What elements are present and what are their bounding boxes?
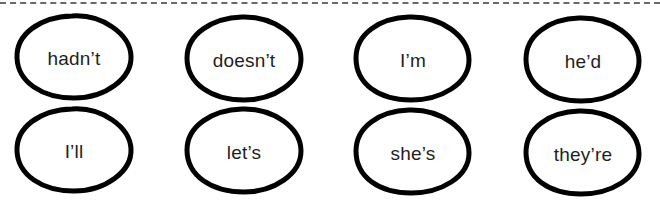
egg-card-doesnt: doesn’t	[184, 14, 304, 102]
contraction-word: hadn’t	[14, 12, 134, 100]
contraction-word: she’s	[353, 107, 473, 195]
contraction-word: let’s	[184, 106, 304, 194]
egg-card-hadnt: hadn’t	[14, 12, 134, 100]
contraction-word: I’m	[353, 14, 473, 102]
egg-card-hed: he’d	[523, 15, 643, 103]
contraction-egg-grid: hadn’t doesn’t I’m he’d I’ll let’s	[0, 0, 660, 207]
egg-card-lets: let’s	[184, 106, 304, 194]
contraction-word: he’d	[523, 15, 643, 103]
egg-card-theyre: they’re	[523, 108, 643, 196]
contraction-word: they’re	[523, 108, 643, 196]
contraction-word: I’ll	[14, 105, 134, 193]
egg-card-shes: she’s	[353, 107, 473, 195]
egg-card-im: I’m	[353, 14, 473, 102]
egg-card-ill: I’ll	[14, 105, 134, 193]
contraction-word: doesn’t	[184, 14, 304, 102]
